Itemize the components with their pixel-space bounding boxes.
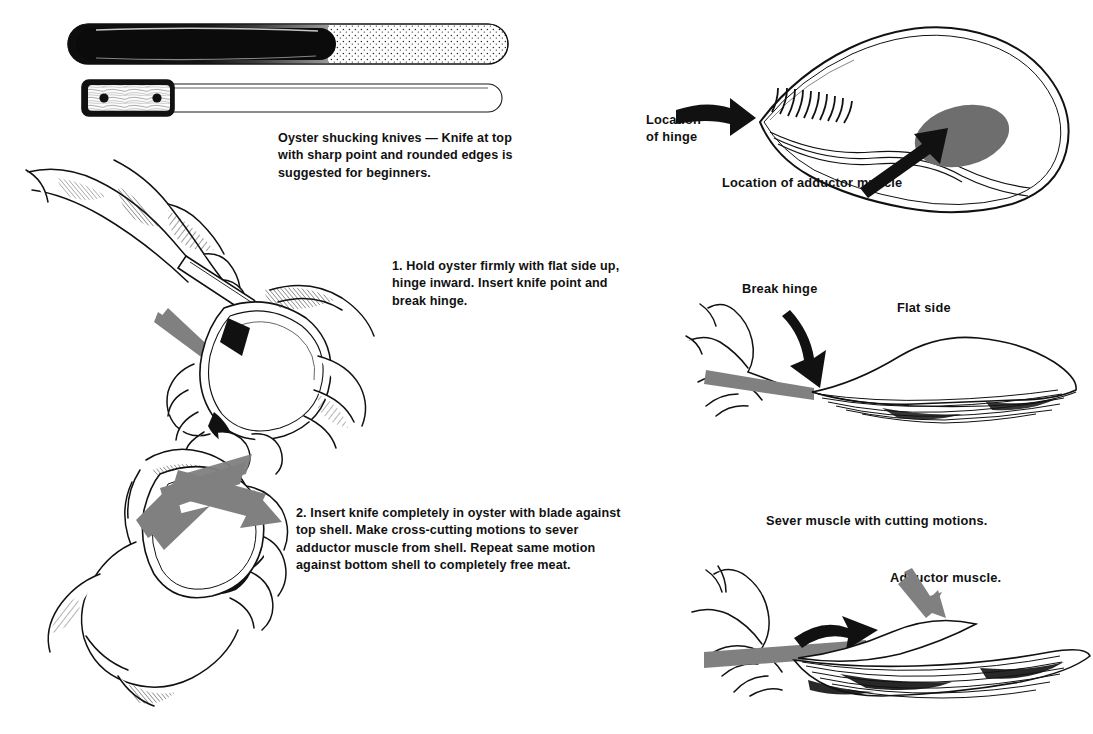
break-hinge-illustration: [686, 296, 1086, 421]
knife-bottom: [82, 80, 502, 116]
oyster-anatomy-diagram: [700, 18, 1093, 228]
adductor-location-label: Location of adductor muscle: [722, 175, 902, 192]
step-1-text: 1. Hold oyster firmly with flat side up,…: [392, 258, 628, 310]
knife-diagrams: [18, 16, 538, 131]
knife-top: [68, 24, 508, 64]
knife-rivet: [99, 93, 108, 102]
step1-illustration: [18, 150, 378, 450]
break-hinge-arrow: [782, 310, 826, 388]
sever-muscle-illustration: [690, 556, 1090, 706]
illustration-page: Oyster shucking knives — Knife at top wi…: [0, 0, 1093, 734]
knife-rivet: [152, 93, 161, 102]
step-2-text: 2. Insert knife completely in oyster wit…: [296, 505, 636, 575]
adductor-pointer-gray: [898, 568, 946, 618]
sever-muscle-heading: Sever muscle with cutting motions.: [766, 513, 988, 530]
